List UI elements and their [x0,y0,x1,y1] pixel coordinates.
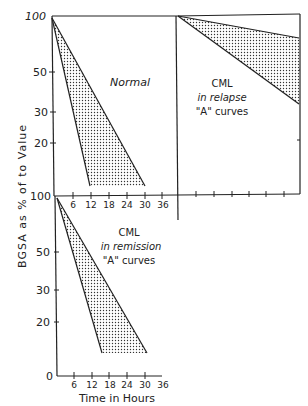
x-tick-36: 36 [157,200,169,210]
y-tick-100: 100 [25,10,46,23]
x-tick-6-bottom: 6 [71,380,77,390]
label-relapse-line1: CML [211,78,233,89]
divider-axis [176,16,178,220]
top-border-right [176,14,300,16]
middle-x-axis: 6 12 18 24 30 36 [54,191,300,210]
panel-relapse: CML in relapse "A" curves [176,14,300,220]
label-relapse-line2: in relapse [197,92,246,103]
label-normal: Normal [110,76,150,89]
x-tick-6: 6 [70,200,76,210]
x-tick-24: 24 [121,200,133,210]
label-relapse-line3: "A" curves [196,106,248,117]
x-tick-18-bottom: 18 [104,380,116,390]
y-tick-100-bottom: 100 [30,190,51,203]
x-axis-label: Time in Hours [78,392,155,405]
y-tick-30-bottom: 30 [36,284,50,297]
y-axis-label: BGSA as % of to Value [16,124,29,268]
label-remission-line3: "A" curves [103,255,155,266]
y-tick-20: 20 [34,137,48,150]
x-tick-30-bottom: 30 [139,380,151,390]
y-axis-bottom [55,196,57,376]
x-tick-24-bottom: 24 [121,380,133,390]
panel-normal: 100 50 30 20 Normal [25,10,176,196]
x-tick-12-bottom: 12 [86,380,97,390]
panel-remission: 100 50 30 20 0 CML in remission "A" curv… [30,190,169,405]
label-remission-line1: CML [118,227,140,238]
chart-figure: 100 50 30 20 Normal CML in relapse "A" c… [0,0,308,406]
y-tick-30: 30 [34,106,48,119]
y-tick-50: 50 [33,66,47,79]
label-remission-line2: in remission [101,241,162,252]
x-tick-30: 30 [139,200,151,210]
x-tick-18: 18 [103,200,115,210]
y-axis-top [52,16,54,196]
y-tick-20-bottom: 20 [36,316,50,329]
y-tick-0: 0 [46,370,53,383]
x-tick-12: 12 [85,200,96,210]
x-tick-36-bottom: 36 [157,380,169,390]
y-tick-50-bottom: 50 [36,246,50,259]
